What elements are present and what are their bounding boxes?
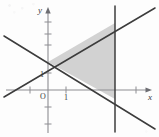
y-axis-label: y: [37, 5, 42, 15]
x-tick-label-1: 1: [64, 93, 68, 102]
rising-line: [4, 8, 155, 97]
coordinate-plane-figure: y x O 1 1: [0, 0, 159, 137]
origin-label: O: [40, 92, 46, 101]
x-axis-group: [6, 87, 152, 94]
shaded-triangle-region: [48, 23, 115, 99]
x-axis-label: x: [147, 92, 152, 102]
y-axis-arrowhead: [45, 7, 50, 14]
y-tick-label-1: 1: [40, 70, 44, 79]
figure-root: y x O 1 1: [0, 0, 159, 137]
